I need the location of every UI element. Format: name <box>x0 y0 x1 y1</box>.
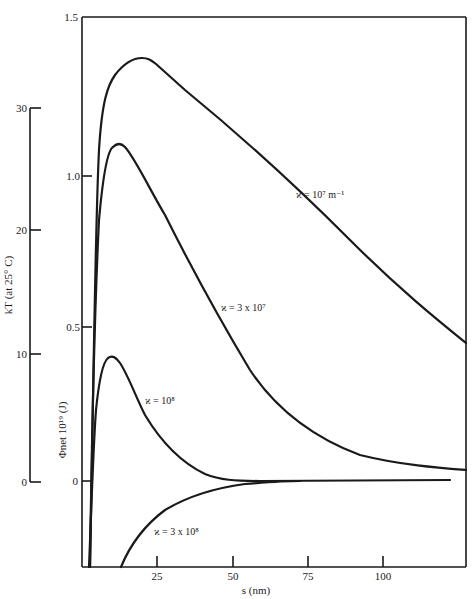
x-axis-title: s (nm) <box>242 584 271 597</box>
label-kappa-1e7: ϰ = 10⁷ m⁻¹ <box>296 189 344 200</box>
curve-kappa-3e7 <box>90 144 466 567</box>
label-kappa-3e8: ϰ = 3 x 10⁸ <box>154 526 199 537</box>
y-axis-title: Φnet 10¹⁹ (J) <box>56 401 69 458</box>
curve-kappa-1e7 <box>90 58 466 567</box>
kt-tick-10: 10 <box>16 348 28 360</box>
label-kappa-1e8: ϰ = 10⁸ <box>145 395 175 406</box>
y-tick-0: 0 <box>73 475 79 487</box>
y-tick-1.0: 1.0 <box>66 170 80 182</box>
label-kappa-3e7: ϰ = 3 x 10⁷ <box>221 302 266 313</box>
y-tick-1.5: 1.5 <box>64 11 78 23</box>
x-tick-50: 50 <box>228 570 240 582</box>
y-axis-ticks <box>82 176 92 481</box>
curve-kappa-3e8 <box>121 481 300 567</box>
kt-axis-title: kT (at 25° C) <box>2 256 15 315</box>
plot-frame <box>82 17 466 567</box>
y-tick-0.5: 0.5 <box>66 321 80 333</box>
x-axis-ticks <box>157 556 383 567</box>
x-tick-25: 25 <box>152 570 164 582</box>
kt-tick-30: 30 <box>16 102 28 114</box>
kt-tick-20: 20 <box>16 224 28 236</box>
x-tick-75: 75 <box>303 570 315 582</box>
kt-tick-0: 0 <box>22 476 28 488</box>
potential-energy-chart: 1.5 1.0 0.5 0 25 50 75 100 s (nm) Φnet 1… <box>0 0 476 599</box>
kt-axis <box>30 108 41 482</box>
x-tick-100: 100 <box>375 570 392 582</box>
